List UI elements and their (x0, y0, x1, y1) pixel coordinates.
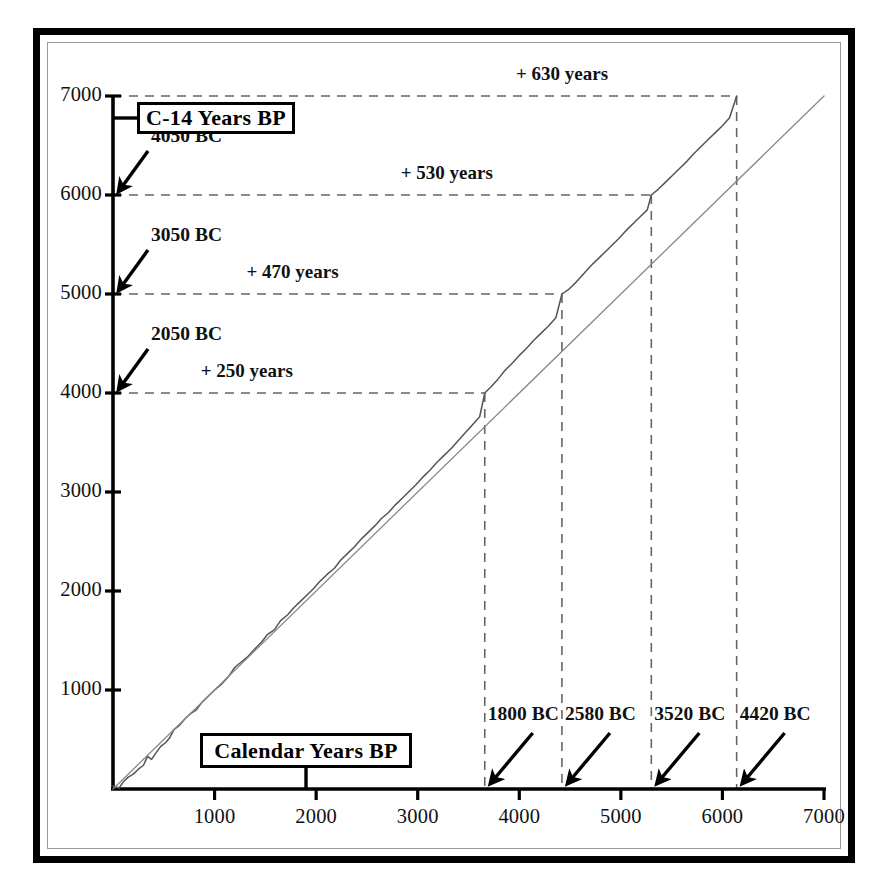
data-series (113, 96, 824, 789)
x-tick-label-2000: 2000 (271, 805, 361, 828)
y-callout-2050-bc: 2050 BC (151, 323, 222, 345)
y-tick-label-2000: 2000 (30, 578, 102, 601)
y-callout-arrow-5000 (119, 250, 148, 290)
x-axis-title-box: Calendar Years BP (200, 733, 412, 768)
y-tick-label-3000: 3000 (30, 479, 102, 502)
offset-label-470: + 470 years (218, 261, 368, 283)
x-tick-label-4000: 4000 (474, 805, 564, 828)
calibration-curve-figure: 1000200030004000500060007000 10002000300… (0, 0, 875, 890)
x-callout-4420-bc: 4420 BC (740, 703, 811, 725)
x-callout-3520-bc: 3520 BC (654, 703, 725, 725)
x-tick-label-1000: 1000 (170, 805, 260, 828)
x-callout-arrow-6140 (743, 733, 785, 783)
series-calibration-curve (113, 96, 737, 788)
offset-label-250: + 250 years (172, 360, 322, 382)
x-callout-1800-bc: 1800 BC (488, 703, 559, 725)
y-axis-title-box: C-14 Years BP (137, 102, 295, 134)
x-callout-2580-bc: 2580 BC (565, 703, 636, 725)
x-tick-label-5000: 5000 (576, 805, 666, 828)
dashed-guide-lines (113, 96, 737, 789)
series-one-to-one-line (113, 96, 824, 789)
y-callout-3050-bc: 3050 BC (151, 224, 222, 246)
y-tick-label-1000: 1000 (30, 677, 102, 700)
y-callout-arrow-6000 (119, 151, 148, 191)
x-callout-arrow-5300 (657, 733, 699, 783)
y-tick-label-6000: 6000 (30, 182, 102, 205)
x-tick-label-6000: 6000 (677, 805, 767, 828)
x-tick-label-3000: 3000 (373, 805, 463, 828)
x-tick-label-7000: 7000 (779, 805, 869, 828)
x-callout-arrow-4420 (568, 733, 610, 783)
y-tick-label-7000: 7000 (30, 83, 102, 106)
offset-label-630: + 630 years (487, 63, 637, 85)
y-callout-arrow-4000 (119, 349, 148, 389)
x-callout-arrow-3660 (491, 733, 533, 783)
y-tick-label-4000: 4000 (30, 380, 102, 403)
offset-label-530: + 530 years (372, 162, 522, 184)
axis-label-connectors (113, 118, 306, 789)
y-tick-label-5000: 5000 (30, 281, 102, 304)
plot-area (0, 0, 875, 890)
